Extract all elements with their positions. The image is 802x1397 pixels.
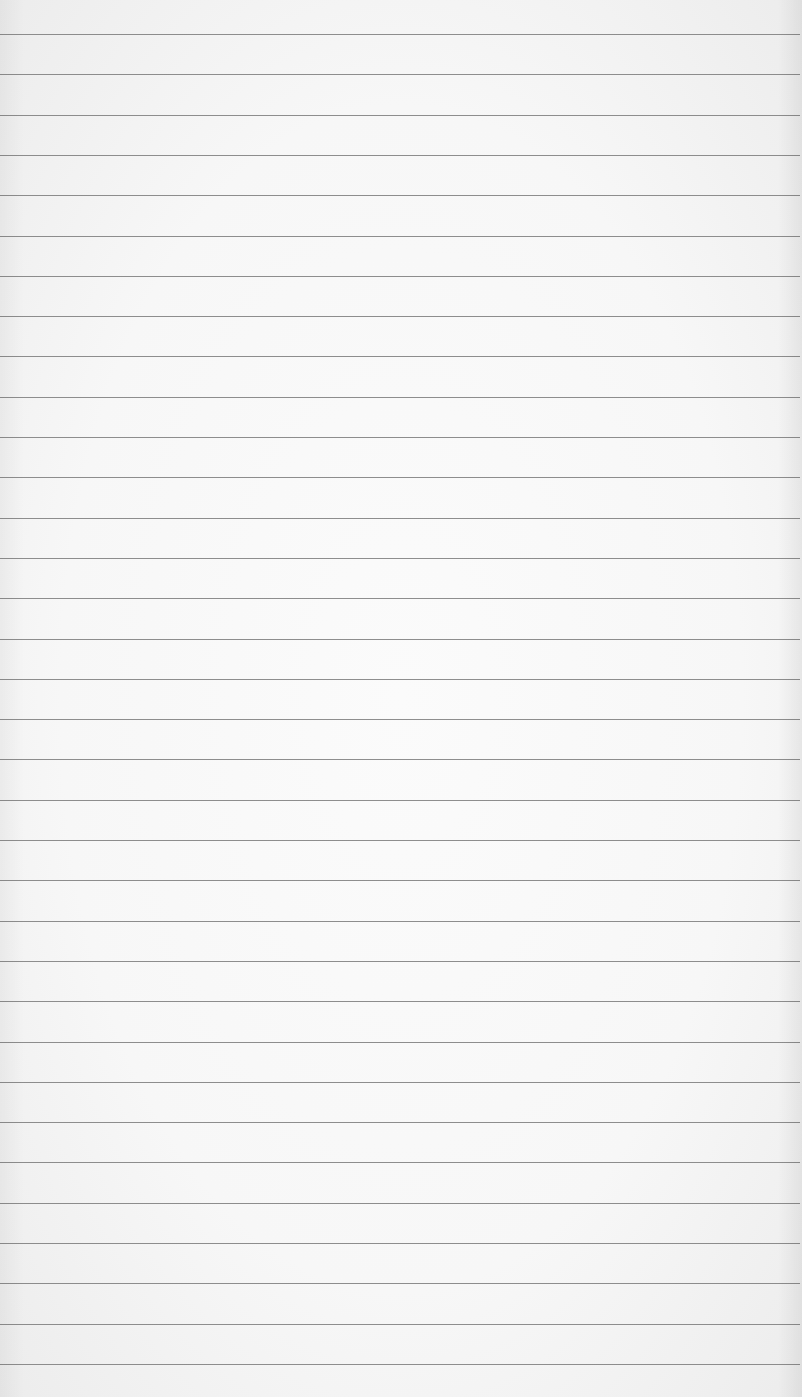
ruled-line bbox=[0, 1243, 800, 1244]
ruled-line bbox=[0, 477, 800, 478]
ruled-line bbox=[0, 437, 800, 438]
ruled-line bbox=[0, 840, 800, 841]
ruled-line bbox=[0, 1042, 800, 1043]
ruled-line bbox=[0, 639, 800, 640]
ruled-line bbox=[0, 356, 800, 357]
ruled-line bbox=[0, 1122, 800, 1123]
ruled-line bbox=[0, 558, 800, 559]
ruled-line bbox=[0, 236, 800, 237]
ruled-line bbox=[0, 1364, 800, 1365]
ruled-line bbox=[0, 115, 800, 116]
ruled-line bbox=[0, 1283, 800, 1284]
ruled-line bbox=[0, 961, 800, 962]
ruled-line bbox=[0, 759, 800, 760]
ruled-line bbox=[0, 1203, 800, 1204]
ruled-line bbox=[0, 719, 800, 720]
ruled-line bbox=[0, 397, 800, 398]
ruled-line bbox=[0, 1001, 800, 1002]
ruled-line bbox=[0, 518, 800, 519]
ruled-line bbox=[0, 679, 800, 680]
ruled-line bbox=[0, 155, 800, 156]
ruled-line bbox=[0, 1082, 800, 1083]
ruled-line bbox=[0, 276, 800, 277]
ruled-line bbox=[0, 195, 800, 196]
ruled-line bbox=[0, 1162, 800, 1163]
ruled-line bbox=[0, 1324, 800, 1325]
ruled-line bbox=[0, 800, 800, 801]
ruled-line bbox=[0, 316, 800, 317]
ruled-line bbox=[0, 598, 800, 599]
ruled-line bbox=[0, 74, 800, 75]
ruled-line bbox=[0, 921, 800, 922]
ruled-line bbox=[0, 34, 800, 35]
ruled-line bbox=[0, 880, 800, 881]
ruled-paper-sheet bbox=[0, 0, 802, 1397]
